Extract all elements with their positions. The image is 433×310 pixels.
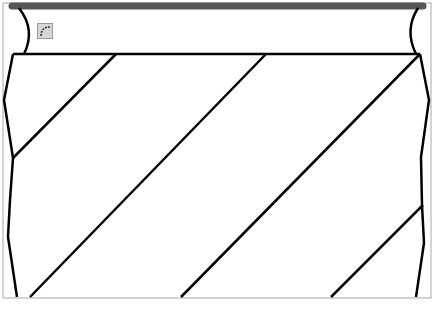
hatch-line [181,54,420,297]
fillet-arc-tool-button[interactable] [37,23,53,39]
hatch-line [30,54,266,297]
left-boundary [4,54,17,297]
drawing-canvas[interactable] [0,0,433,310]
right-curve [410,8,418,54]
right-boundary [416,54,429,297]
hatch-line [331,205,423,297]
left-curve [19,8,29,54]
hatch-line [13,54,116,158]
canvas-frame [3,3,431,298]
arc-corner-icon [38,24,52,38]
